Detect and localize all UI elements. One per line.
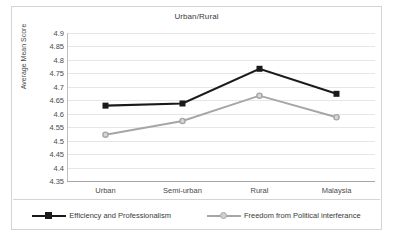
y-tick-label: 4.5 xyxy=(38,136,64,145)
data-point-circle xyxy=(334,115,339,120)
y-axis-ticks: 4.94.854.84.754.74.654.64.554.54.454.44.… xyxy=(36,33,64,181)
data-point-circle xyxy=(180,118,185,123)
chart-figure: Urban/Rural Average Mean Score 4.94.854.… xyxy=(0,0,393,243)
y-tick-label: 4.85 xyxy=(38,42,64,51)
y-axis-line xyxy=(67,33,68,182)
y-tick-label: 4.8 xyxy=(38,55,64,64)
y-tick-label: 4.7 xyxy=(38,82,64,91)
legend-item-efficiency[interactable]: Efficiency and Professionalism xyxy=(32,211,171,220)
y-tick-label: 4.55 xyxy=(38,123,64,132)
x-axis-line xyxy=(67,181,375,182)
legend-swatch-square-icon xyxy=(32,211,66,220)
y-tick-label: 4.6 xyxy=(38,109,64,118)
data-point-square xyxy=(257,66,263,72)
chart-legend: Efficiency and Professionalism Freedom f… xyxy=(14,205,379,225)
data-point-square xyxy=(103,103,109,109)
x-tick-label: Semi-urban xyxy=(163,186,202,195)
legend-divider xyxy=(13,199,380,200)
legend-label-freedom: Freedom from Political interferance xyxy=(244,211,361,220)
data-point-square xyxy=(334,91,340,97)
legend-label-efficiency: Efficiency and Professionalism xyxy=(69,211,171,220)
legend-swatch-circle-icon xyxy=(207,211,241,220)
data-point-circle xyxy=(257,93,262,98)
legend-item-freedom[interactable]: Freedom from Political interferance xyxy=(207,211,361,220)
y-tick-label: 4.45 xyxy=(38,150,64,159)
y-tick-label: 4.4 xyxy=(38,163,64,172)
y-tick-label: 4.9 xyxy=(38,29,64,38)
y-tick-label: 4.35 xyxy=(38,177,64,186)
y-tick-label: 4.75 xyxy=(38,69,64,78)
series-lines xyxy=(67,33,375,181)
x-tick-label: Rural xyxy=(251,186,269,195)
plot-area xyxy=(67,33,375,181)
data-point-square xyxy=(180,101,186,107)
chart-title: Urban/Rural xyxy=(0,12,393,21)
y-tick-label: 4.65 xyxy=(38,96,64,105)
series-line xyxy=(106,96,337,135)
x-tick-label: Malaysia xyxy=(322,186,352,195)
y-axis-label: Average Mean Score xyxy=(20,7,27,107)
series-line xyxy=(106,69,337,106)
x-tick-label: Urban xyxy=(95,186,115,195)
data-point-circle xyxy=(103,132,108,137)
